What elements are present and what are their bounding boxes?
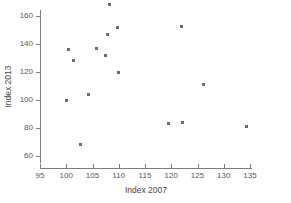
data-point — [67, 48, 70, 51]
data-point — [87, 93, 90, 96]
data-point — [104, 54, 107, 57]
data-point — [108, 3, 111, 6]
data-point — [72, 59, 75, 62]
data-point — [106, 33, 109, 36]
data-point — [245, 125, 248, 128]
scatter-chart: 6080100120140160 95100105110115120125130… — [0, 0, 291, 203]
data-point — [202, 83, 205, 86]
data-point — [95, 47, 98, 50]
y-axis-title: Index 2013 — [4, 55, 13, 119]
data-point — [181, 121, 184, 124]
plot-area: 6080100120140160 95100105110115120125130… — [0, 0, 291, 203]
data-point — [167, 122, 170, 125]
data-point — [180, 25, 183, 28]
data-point — [79, 143, 82, 146]
data-point — [116, 26, 119, 29]
x-axis-title: Index 2007 — [40, 186, 252, 195]
data-points-layer — [0, 0, 291, 203]
data-point — [117, 71, 120, 74]
data-point — [65, 99, 68, 102]
